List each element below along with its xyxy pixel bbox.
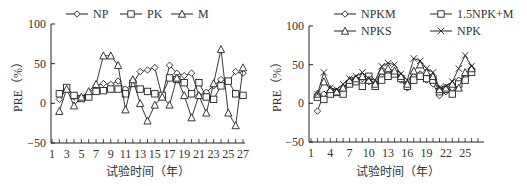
legend-label: NPKM (361, 7, 396, 21)
M-marker (56, 107, 63, 114)
left-series (56, 46, 247, 129)
legend-label: 1.5NPK+M (457, 7, 514, 21)
y-tick-label: 0 (298, 96, 304, 110)
M-marker (232, 122, 239, 129)
M-marker (203, 109, 210, 116)
right-chart: NPKM1.5NPK+MNPKSNPK −5005010014710131619… (270, 7, 514, 179)
PK-marker (240, 92, 246, 98)
y-tick-label: 50 (292, 58, 304, 72)
y-tick-label: −50 (285, 135, 304, 149)
y-tick-label: 50 (34, 57, 46, 71)
y-tick-label: 0 (40, 96, 46, 110)
1.5NPK+M-marker (423, 75, 429, 81)
NPK-marker (462, 52, 468, 58)
x-tick-label: 1 (49, 147, 55, 161)
x-tick-label: 3 (64, 147, 70, 161)
PK-marker (232, 91, 238, 97)
x-tick-label: 16 (401, 146, 413, 160)
x-tick-label: 17 (164, 147, 176, 161)
legend-label: NPKS (361, 24, 392, 38)
y-tick-label: 100 (286, 19, 304, 33)
1.5NPK+M-marker (438, 11, 444, 17)
series-pk (56, 75, 246, 103)
right-legend: NPKM1.5NPK+MNPKSNPK (334, 7, 514, 38)
x-tick-label: 5 (78, 147, 84, 161)
legend-label: NP (93, 7, 109, 21)
NPK-marker (456, 65, 462, 71)
x-tick-label: 19 (421, 146, 433, 160)
PK-marker (181, 80, 187, 86)
x-tick-label: 25 (222, 147, 234, 161)
left-y-axis-title: PRE（%） (11, 56, 25, 112)
x-tick-label: 23 (208, 147, 220, 161)
NPK-marker (321, 69, 327, 75)
y-tick-label: 100 (28, 17, 46, 31)
PK-marker (152, 91, 158, 97)
x-tick-label: 13 (134, 147, 146, 161)
NP-marker (181, 72, 187, 78)
NP-marker (188, 70, 194, 76)
x-tick-label: 7 (93, 147, 99, 161)
x-tick-label: 21 (193, 147, 205, 161)
M-marker (137, 100, 144, 107)
right-y-axis-title: PRE（%） (270, 56, 284, 112)
right-x-axis-title: 试验时间（年） (356, 164, 440, 179)
legend-item: NPK (430, 24, 481, 38)
PK-marker (188, 91, 194, 97)
PK-marker (166, 75, 172, 81)
1.5NPK+M-marker (449, 91, 455, 97)
legend-label: PK (147, 7, 163, 21)
y-tick-label: −50 (27, 136, 46, 150)
left-chart: NPPKM −5005010013579111315171921232527 P… (11, 7, 249, 179)
1.5NPK+M-marker (359, 83, 365, 89)
PK-marker (56, 91, 62, 97)
PK-marker (144, 88, 150, 94)
x-tick-label: 27 (237, 147, 249, 161)
x-tick-label: 15 (149, 147, 161, 161)
PK-marker (71, 92, 77, 98)
x-tick-label: 10 (363, 146, 375, 160)
legend-item: NP (66, 7, 109, 21)
left-x-axis-title: 试验时间（年） (106, 164, 190, 179)
x-tick-label: 25 (459, 146, 471, 160)
legend-item: NPKS (334, 24, 392, 38)
legend-item: NPKM (334, 7, 396, 21)
PK-marker (128, 11, 134, 17)
M-marker (181, 92, 188, 99)
1.5NPK+M-marker (321, 96, 327, 102)
M-marker (225, 109, 232, 116)
PK-marker (137, 86, 143, 92)
x-tick-label: 4 (327, 146, 333, 160)
NPK-marker (411, 55, 417, 61)
x-tick-label: 7 (347, 146, 353, 160)
PK-marker (108, 86, 114, 92)
NPKM-marker (314, 108, 320, 114)
legend-item: PK (120, 7, 163, 21)
NP-marker (144, 67, 150, 73)
1.5NPK+M-marker (378, 77, 384, 83)
M-marker (144, 117, 151, 124)
NP-marker (100, 80, 106, 86)
legend-label: NPK (457, 24, 481, 38)
NP-marker (74, 11, 80, 17)
NPKM-marker (342, 11, 348, 17)
NP-marker (137, 68, 143, 74)
PK-marker (100, 87, 106, 93)
1.5NPK+M-marker (417, 73, 423, 79)
x-tick-label: 13 (382, 146, 394, 160)
1.5NPK+M-marker (385, 73, 391, 79)
left-legend: NPPKM (66, 7, 209, 21)
M-marker (239, 64, 246, 71)
x-tick-label: 1 (308, 146, 314, 160)
M-marker (188, 114, 195, 121)
PK-marker (93, 88, 99, 94)
NP-marker (152, 64, 158, 70)
1.5NPK+M-marker (411, 77, 417, 83)
M-marker (122, 106, 129, 113)
x-tick-label: 9 (108, 147, 114, 161)
M-marker (92, 80, 99, 87)
1.5NPK+M-marker (340, 91, 346, 97)
PK-marker (225, 78, 231, 84)
PK-marker (115, 86, 121, 92)
x-tick-label: 22 (440, 146, 452, 160)
